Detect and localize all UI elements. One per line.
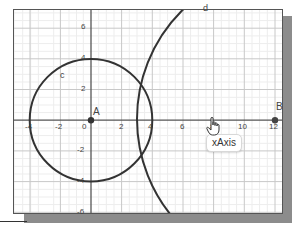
minor-grid	[14, 10, 283, 214]
window-shadow-right	[283, 16, 292, 222]
point-b[interactable]	[272, 117, 278, 123]
graphics-view[interactable]	[13, 9, 283, 214]
graphics-canvas[interactable]	[14, 10, 283, 214]
major-grid	[14, 10, 283, 214]
window-shadow-bottom	[24, 214, 292, 223]
divider-line	[0, 221, 27, 222]
point-a[interactable]	[88, 117, 94, 123]
circle-d[interactable]	[137, 10, 283, 214]
hand-cursor-icon	[206, 117, 222, 137]
